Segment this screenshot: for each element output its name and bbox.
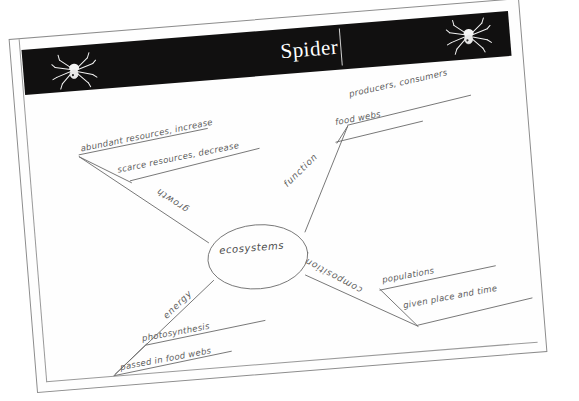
- scanned-worksheet-image: Spider: [0, 0, 579, 401]
- label-food-webs: food webs: [334, 109, 381, 127]
- branch-label-function: function: [282, 151, 320, 188]
- label-producers-consumers: producers, consumers: [348, 67, 448, 99]
- label-scarce-resources: scarce resources, decrease: [116, 140, 240, 175]
- label-given-place-and-time: given place and time: [402, 283, 498, 310]
- paper-wrapper: Spider: [0, 0, 579, 401]
- branch-label-energy: energy: [161, 288, 194, 321]
- branch-label-composition: composition: [303, 256, 364, 295]
- center-ellipse: [205, 221, 310, 293]
- label-passed-in-food-webs: passed in food webs: [119, 345, 212, 372]
- spider-icon: [444, 13, 493, 57]
- center-node-label: ecosystems: [219, 241, 285, 256]
- page-title: Spider: [279, 34, 339, 65]
- label-abundant-resources: abundant resources, increase: [80, 117, 214, 154]
- banner-divider: [339, 29, 343, 66]
- label-populations: populations: [381, 265, 435, 285]
- label-photosynthesis: photosynthesis: [141, 321, 210, 343]
- worksheet-page: Spider: [9, 0, 548, 393]
- title-banner: Spider: [22, 11, 512, 95]
- branch-label-growth: growth: [154, 186, 190, 214]
- spider-icon: [50, 48, 99, 92]
